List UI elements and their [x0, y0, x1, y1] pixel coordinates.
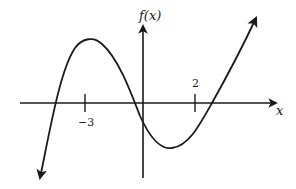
tick-label-2: 2 [192, 77, 199, 90]
function-curve [40, 18, 256, 178]
x-axis-label: x [276, 103, 284, 118]
y-axis-label: f(x) [138, 8, 161, 23]
tick-label-neg3: −3 [78, 116, 94, 129]
graph-canvas: f(x) x −3 2 [0, 0, 296, 189]
function-graph: f(x) x −3 2 [0, 0, 296, 189]
